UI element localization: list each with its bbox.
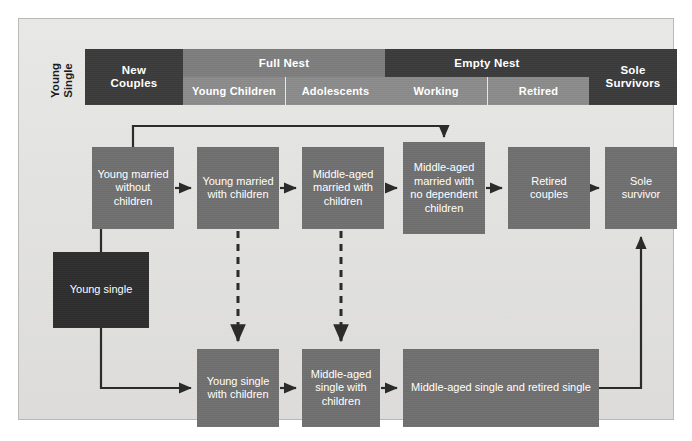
header-sole-survivors-line-2: Survivors [606, 77, 661, 91]
node-label: Young single [65, 283, 138, 297]
header-stage-full-nest: Full Nest [183, 49, 385, 77]
node-label: Young single with children [197, 375, 279, 402]
header-sole-survivors-line-1: Sole [606, 64, 661, 78]
node-label: Middle-aged single and retired single [406, 381, 596, 395]
header-substage-adolescents: Adolescents [286, 77, 385, 105]
node-label: Young married with children [197, 175, 279, 202]
node-retired-couples[interactable]: Retired couples [508, 147, 590, 229]
node-middle-aged-married-with-children[interactable]: Middle-aged married with children [302, 147, 384, 229]
node-young-single[interactable]: Young single [53, 252, 149, 328]
header-stage-sole-survivors: Sole Survivors [589, 49, 677, 105]
header-new-couples-line-2: Couples [111, 77, 158, 91]
young-single-axis-label: Young Single [41, 49, 81, 111]
header-stage-new-couples: New Couples [85, 49, 183, 105]
side-label-line-1: Young [48, 63, 61, 98]
header-substage-retired: Retired [488, 77, 589, 105]
node-label: Middle-aged married with children [302, 168, 384, 209]
node-label: Young married without children [92, 168, 174, 209]
node-label: Middle-aged married with no dependent ch… [403, 161, 485, 215]
header-stage-empty-nest: Empty Nest [385, 49, 589, 77]
family-life-cycle-diagram: Young Single New Couples Full Nest Young… [0, 0, 692, 441]
node-young-married-with-children[interactable]: Young married with children [197, 147, 279, 229]
side-label-line-2: Single [61, 63, 74, 98]
node-label: Retired couples [508, 175, 590, 202]
node-middle-aged-married-no-dependent-children[interactable]: Middle-aged married with no dependent ch… [403, 142, 485, 234]
header-substage-working: Working [385, 77, 487, 105]
diagram-panel: Young Single New Couples Full Nest Young… [18, 18, 674, 420]
header-new-couples-line-1: New [111, 64, 158, 78]
header-substage-young-children: Young Children [183, 77, 285, 105]
node-young-married-without-children[interactable]: Young married without children [92, 147, 174, 229]
node-young-single-with-children[interactable]: Young single with children [197, 349, 279, 427]
node-sole-survivor[interactable]: Sole survivor [605, 147, 677, 229]
node-label: Middle-aged single with children [302, 368, 380, 409]
node-label: Sole survivor [605, 175, 677, 202]
node-middle-aged-single-and-retired-single[interactable]: Middle-aged single and retired single [403, 349, 599, 427]
node-middle-aged-single-with-children[interactable]: Middle-aged single with children [302, 349, 380, 427]
